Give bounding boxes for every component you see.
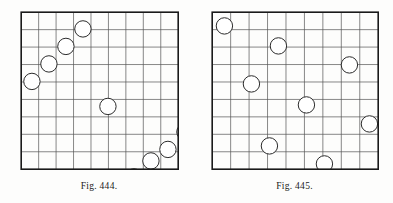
grid-border — [212, 12, 378, 169]
figure-444 — [20, 11, 180, 171]
grid-lines — [21, 12, 178, 169]
piece-circle — [143, 153, 159, 169]
piece-circle — [298, 97, 314, 113]
grid-lines — [212, 12, 378, 169]
chessboard-grid-444 — [20, 11, 180, 171]
piece-circle — [361, 116, 377, 132]
figure-page: Fig. 444. Fig. 445. — [0, 0, 393, 203]
figure-444-caption: Fig. 444. — [20, 181, 178, 191]
piece-circle — [58, 38, 74, 54]
piece-circle — [24, 73, 40, 89]
grid-444-wrapper — [20, 11, 180, 171]
grid-445-wrapper — [211, 11, 381, 171]
figure-445 — [211, 11, 381, 171]
grid-border — [21, 12, 178, 169]
piece-circle — [243, 76, 259, 92]
piece-circle — [341, 57, 357, 73]
piece-circle — [75, 21, 91, 37]
figure-445-caption: Fig. 445. — [211, 181, 378, 191]
piece-circle — [41, 56, 57, 72]
piece-layer — [216, 18, 381, 171]
piece-layer — [24, 21, 180, 171]
piece-circle — [216, 18, 232, 34]
figure-444-caption-text: Fig. 444. — [81, 181, 118, 191]
chessboard-grid-445 — [211, 11, 381, 171]
piece-circle — [270, 38, 286, 54]
piece-circle — [100, 98, 116, 114]
figure-445-caption-text: Fig. 445. — [276, 181, 313, 191]
piece-circle — [261, 138, 277, 154]
piece-circle — [160, 141, 176, 157]
